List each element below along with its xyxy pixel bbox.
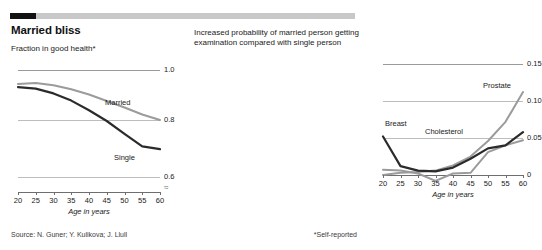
series-line-single [18, 87, 160, 149]
x-tick-40 [89, 192, 90, 195]
series-label-single: Single [114, 153, 135, 162]
x-tick-label-right-35: 35 [431, 179, 439, 188]
x-tick-label-20: 20 [14, 196, 22, 205]
x-tick-right-35 [436, 175, 437, 178]
x-tick-45 [107, 192, 108, 195]
x-tick-label-40: 40 [85, 196, 93, 205]
series-label-prostate: Prostate [483, 81, 511, 90]
left-chart-panel: Married bliss Fraction in good health* 1… [0, 0, 182, 250]
x-tick-label-60: 60 [156, 196, 164, 205]
x-tick-label-35: 35 [67, 196, 75, 205]
x-tick-right-40 [453, 175, 454, 178]
right-chart-subtitle: Increased probability of married person … [194, 28, 369, 47]
x-tick-55 [142, 192, 143, 195]
axis-break-icon: ≈ [164, 183, 168, 192]
left-plot-area: 1.0 0.8 0.6 ≈ Married Single [18, 70, 160, 192]
x-tick-label-55: 55 [138, 196, 146, 205]
x-tick-label-45: 45 [103, 196, 111, 205]
x-tick-50 [125, 192, 126, 195]
x-tick-right-30 [418, 175, 419, 178]
x-tick-label-right-25: 25 [396, 179, 404, 188]
x-tick-label-right-60: 60 [519, 179, 527, 188]
x-tick-label-right-50: 50 [484, 179, 492, 188]
x-tick-right-45 [471, 175, 472, 178]
x-tick-label-right-45: 45 [466, 179, 474, 188]
page-title: Married bliss [11, 24, 81, 36]
x-tick-label-right-20: 20 [379, 179, 387, 188]
y-tick-label-0.10: 0.10 [527, 96, 542, 105]
x-tick-20 [18, 192, 19, 195]
y-tick-label-0.8: 0.8 [164, 115, 174, 124]
x-axis-caption-left: Age in years [68, 207, 110, 216]
series-label-cholesterol: Cholesterol [425, 127, 463, 136]
right-plot-area: 0.15 0.10 0.05 0 Breast Cholesterol Pros… [383, 64, 523, 192]
series-label-breast: Breast [385, 119, 407, 128]
y-tick-label-0: 0 [527, 170, 531, 179]
x-tick-label-30: 30 [49, 196, 57, 205]
source-note: Source: N. Guner; Y. Kulikova; J. Llull [11, 231, 127, 238]
y-tick-label-1.0: 1.0 [164, 65, 174, 74]
x-tick-35 [71, 192, 72, 195]
left-series-svg [18, 70, 160, 192]
x-axis-caption-right: Age in years [432, 190, 474, 199]
x-tick-label-25: 25 [32, 196, 40, 205]
x-tick-label-right-40: 40 [449, 179, 457, 188]
y-tick-label-0.6: 0.6 [164, 172, 174, 181]
x-tick-right-20 [383, 175, 384, 178]
x-tick-label-50: 50 [120, 196, 128, 205]
right-chart-panel: Increased probability of married person … [183, 0, 365, 250]
x-tick-60 [160, 192, 161, 195]
left-chart-subtitle: Fraction in good health* [11, 44, 176, 54]
x-tick-25 [36, 192, 37, 195]
footnote-self-reported: *Self-reported [314, 231, 357, 238]
x-tick-right-25 [401, 175, 402, 178]
x-tick-label-right-30: 30 [414, 179, 422, 188]
y-tick-label-0.15: 0.15 [527, 59, 542, 68]
x-tick-right-55 [506, 175, 507, 178]
x-tick-right-60 [523, 175, 524, 178]
series-label-married: Married [105, 98, 130, 107]
x-tick-label-right-55: 55 [501, 179, 509, 188]
y-tick-label-0.05: 0.05 [527, 133, 542, 142]
x-tick-right-50 [488, 175, 489, 178]
x-tick-30 [54, 192, 55, 195]
